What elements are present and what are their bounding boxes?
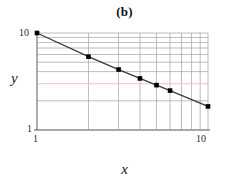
data-point-marker — [168, 88, 173, 93]
chart-plot-area — [0, 0, 249, 185]
y-tick-label-top: 10 — [19, 27, 29, 38]
data-point-marker — [35, 31, 40, 36]
y-axis-label: y — [11, 70, 18, 87]
axis-spines — [34, 31, 210, 130]
x-axis-label: x — [0, 161, 249, 178]
x-tick-label-right: 10 — [196, 133, 206, 144]
data-point-marker — [86, 54, 91, 59]
data-point-marker — [138, 76, 143, 81]
gridlines — [37, 33, 208, 130]
data-point-marker — [154, 83, 159, 88]
data-point-marker — [116, 67, 121, 72]
y-tick-label-bottom: 1 — [27, 123, 32, 134]
figure-panel: (b) y x 10 1 1 10 — [0, 0, 249, 185]
data-point-marker — [206, 104, 211, 109]
x-tick-label-left: 1 — [33, 133, 38, 144]
data-line — [37, 33, 208, 106]
